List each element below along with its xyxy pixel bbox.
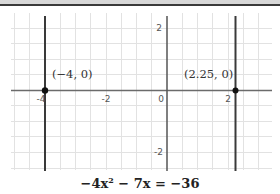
tick-x-0: 0 [158, 94, 164, 104]
tick-x-minus-2: -2 [102, 94, 111, 104]
tick-y-minus-2: -2 [154, 147, 163, 157]
tick-y-2: 2 [156, 23, 162, 33]
graph-plot: -4 -2 0 2 2 -2 (−4, 0) (2.25, 0) [0, 0, 280, 194]
point-label-minus-4-0: (−4, 0) [52, 67, 93, 81]
point-label-2-25-0: (2.25, 0) [184, 67, 233, 81]
point-2-25-0 [233, 88, 239, 94]
tick-x-minus-4: -4 [37, 94, 46, 104]
equation-term-1: −4x [81, 176, 109, 191]
equation-caption: −4x2 − 7x = −36 [0, 175, 280, 191]
point-minus-4-0 [42, 87, 48, 93]
equation-rest: − 7x = −36 [114, 176, 200, 191]
tick-x-2: 2 [225, 94, 231, 104]
